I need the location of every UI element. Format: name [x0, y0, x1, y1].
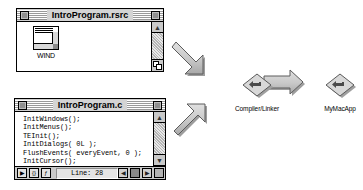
resource-grow-box[interactable] [151, 59, 164, 72]
resource-type-label: WIND [25, 52, 67, 60]
window-resource-icon [33, 26, 59, 50]
code-line: TEInit(); [19, 132, 151, 140]
merge-arrow-upper [172, 42, 205, 76]
scroll-up-button[interactable]: ▲ [154, 112, 165, 123]
vscroll-track[interactable] [152, 33, 163, 60]
code-line: InitCursor(); [19, 157, 151, 165]
scroll-up-button[interactable]: ▲ [152, 22, 163, 33]
code-line: InitWindows(); [19, 115, 151, 123]
close-box[interactable] [20, 11, 29, 20]
zoom-box[interactable] [151, 11, 160, 20]
code-line: InitDialogs( 0L ); [19, 140, 151, 148]
resource-item-wind[interactable]: WIND [25, 26, 67, 60]
code-line: FlushEvents( everyEvent, 0 ); [19, 149, 151, 157]
source-status-bar: ▶ {} ƒ Line: 28 ◀ ▶ [14, 166, 166, 180]
scroll-down-button[interactable]: ▼ [154, 154, 165, 165]
zoom-box[interactable] [153, 101, 162, 110]
scroll-left-button[interactable]: ◀ [118, 168, 128, 178]
diamond-app-icon [322, 70, 358, 100]
vscroll-track[interactable] [154, 123, 165, 154]
status-right-controls: ◀ ▶ [118, 168, 165, 178]
resource-window-titlebar[interactable]: IntroProgram.rsrc [17, 9, 163, 22]
grow-box[interactable] [154, 168, 164, 178]
process-compiler-linker[interactable]: Compiler/Linker [212, 70, 302, 113]
resource-window-body: WIND [17, 22, 163, 71]
split-button[interactable] [130, 168, 140, 178]
function-button[interactable]: ƒ [41, 168, 51, 178]
process-label: MyMacApp [295, 105, 363, 113]
source-window-vscrollbar[interactable]: ▲ ▼ [153, 111, 166, 166]
code-editor-area[interactable]: InitWindows(); InitMenus(); TEInit(); In… [19, 115, 151, 165]
merge-arrow-lower [174, 104, 207, 137]
resource-window[interactable]: IntroProgram.rsrc WIND ▲ ▼ [16, 8, 164, 72]
code-line: InitMenus(); [19, 123, 151, 131]
source-window-title: IntroProgram.c [53, 100, 128, 111]
process-label: Compiler/Linker [212, 105, 302, 113]
close-box[interactable] [18, 101, 27, 110]
source-window[interactable]: IntroProgram.c InitWindows(); InitMenus(… [14, 98, 166, 180]
scroll-right-button[interactable]: ▶ [142, 168, 152, 178]
resource-window-title: IntroProgram.rsrc [47, 10, 134, 21]
marker-button[interactable]: {} [29, 168, 39, 178]
source-window-titlebar[interactable]: IntroProgram.c [15, 99, 165, 112]
process-mymacapp[interactable]: MyMacApp [295, 70, 363, 113]
diamond-app-icon [239, 70, 275, 100]
line-indicator: Line: 28 [56, 168, 118, 179]
run-button[interactable]: ▶ [17, 168, 27, 178]
